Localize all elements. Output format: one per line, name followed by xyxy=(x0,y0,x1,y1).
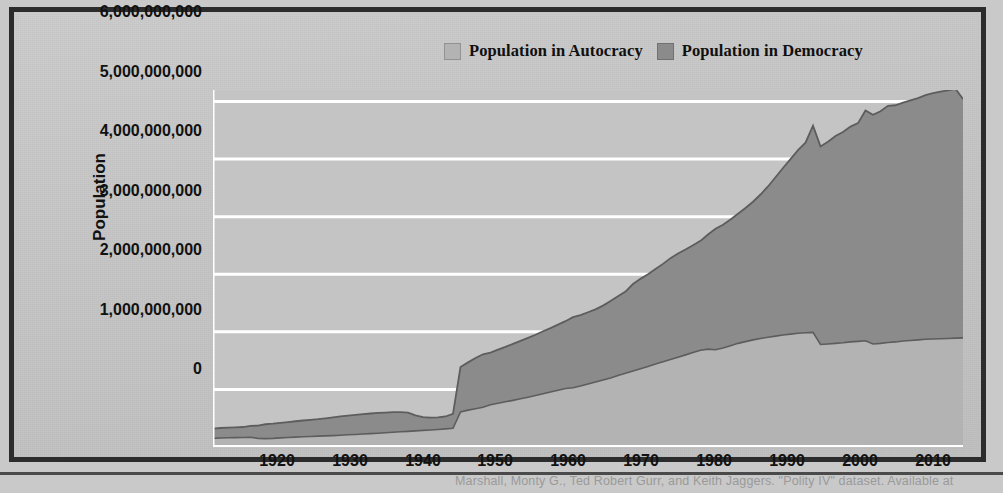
y-axis-tick-labels: 0 1,000,000,000 2,000,000,000 3,000,000,… xyxy=(52,12,202,467)
figure-caption: Marshall, Monty G., Ted Robert Gurr, and… xyxy=(0,470,1003,493)
plot-area xyxy=(213,90,963,447)
x-tick-2000: 2000 xyxy=(842,452,878,470)
x-tick-1970: 1970 xyxy=(623,452,659,470)
x-tick-1960: 1960 xyxy=(550,452,586,470)
legend-item-democracy: Population in Democracy xyxy=(657,41,863,61)
x-tick-1920: 1920 xyxy=(259,452,295,470)
chart-frame: Population in Autocracy Population in De… xyxy=(9,7,986,462)
x-tick-1950: 1950 xyxy=(477,452,513,470)
legend-label-democracy: Population in Democracy xyxy=(682,41,863,61)
y-tick-2: 2,000,000,000 xyxy=(52,241,202,259)
y-tick-6: 6,000,000,000 xyxy=(52,3,202,21)
y-tick-4: 4,000,000,000 xyxy=(52,122,202,140)
y-tick-3: 3,000,000,000 xyxy=(52,182,202,200)
legend-item-autocracy: Population in Autocracy xyxy=(444,41,643,61)
x-tick-2010: 2010 xyxy=(915,452,951,470)
chart-legend: Population in Autocracy Population in De… xyxy=(444,38,984,64)
x-tick-1980: 1980 xyxy=(696,452,732,470)
y-tick-5: 5,000,000,000 xyxy=(52,63,202,81)
x-tick-1990: 1990 xyxy=(769,452,805,470)
x-tick-1930: 1930 xyxy=(332,452,368,470)
x-tick-1940: 1940 xyxy=(405,452,441,470)
figure-container: Population in Autocracy Population in De… xyxy=(0,0,1003,493)
legend-label-autocracy: Population in Autocracy xyxy=(469,41,643,61)
caption-text: Marshall, Monty G., Ted Robert Gurr, and… xyxy=(455,474,1003,488)
y-tick-0: 0 xyxy=(52,360,202,378)
area-chart-svg xyxy=(213,90,963,447)
y-tick-1: 1,000,000,000 xyxy=(52,301,202,319)
legend-swatch-democracy xyxy=(657,43,674,60)
legend-swatch-autocracy xyxy=(444,43,461,60)
